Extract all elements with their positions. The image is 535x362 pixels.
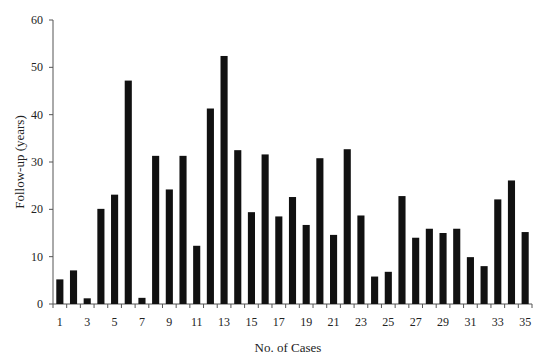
bar bbox=[344, 149, 351, 304]
bar bbox=[56, 279, 63, 304]
y-axis: 0102030405060 bbox=[31, 13, 53, 311]
bar-chart: 0102030405060 13579111315171921232527293… bbox=[0, 0, 535, 362]
y-tick-label: 40 bbox=[31, 108, 43, 122]
bar bbox=[234, 150, 241, 304]
x-tick-label: 13 bbox=[218, 315, 230, 329]
x-tick-label: 29 bbox=[437, 315, 449, 329]
bar bbox=[508, 180, 515, 304]
bar bbox=[207, 109, 214, 304]
x-tick-label: 7 bbox=[139, 315, 145, 329]
x-tick-label: 11 bbox=[191, 315, 203, 329]
x-tick-label: 33 bbox=[492, 315, 504, 329]
x-tick-label: 9 bbox=[166, 315, 172, 329]
y-axis-label: Follow-up (years) bbox=[12, 115, 27, 209]
x-tick-label: 15 bbox=[245, 315, 257, 329]
bar bbox=[262, 154, 269, 304]
x-tick-label: 21 bbox=[328, 315, 340, 329]
chart-canvas: 0102030405060 13579111315171921232527293… bbox=[0, 0, 535, 362]
bar bbox=[303, 225, 310, 304]
bar bbox=[111, 195, 118, 304]
x-axis-label: No. of Cases bbox=[255, 340, 322, 355]
x-tick-label: 23 bbox=[355, 315, 367, 329]
x-tick-label: 27 bbox=[410, 315, 422, 329]
y-tick-label: 60 bbox=[31, 13, 43, 27]
bar bbox=[330, 235, 337, 304]
x-axis: 1357911131517192123252729313335 bbox=[53, 304, 532, 329]
x-tick-label: 17 bbox=[273, 315, 285, 329]
bar bbox=[426, 229, 433, 304]
bar bbox=[385, 272, 392, 304]
bar bbox=[522, 232, 529, 304]
bars bbox=[56, 56, 528, 304]
bar bbox=[138, 298, 145, 304]
bar bbox=[275, 216, 282, 304]
bar bbox=[467, 257, 474, 304]
bar bbox=[166, 189, 173, 304]
bar bbox=[453, 229, 460, 304]
bar bbox=[97, 209, 104, 304]
bar bbox=[481, 266, 488, 304]
bar bbox=[371, 277, 378, 304]
bar bbox=[152, 156, 159, 304]
bar bbox=[193, 246, 200, 304]
bar bbox=[316, 158, 323, 304]
y-tick-label: 20 bbox=[31, 202, 43, 216]
x-tick-label: 35 bbox=[519, 315, 531, 329]
bar bbox=[179, 156, 186, 304]
bar bbox=[125, 81, 132, 304]
x-tick-label: 31 bbox=[464, 315, 476, 329]
bar bbox=[289, 197, 296, 304]
y-tick-label: 30 bbox=[31, 155, 43, 169]
bar bbox=[70, 270, 77, 304]
bar bbox=[357, 215, 364, 304]
bar bbox=[494, 199, 501, 304]
bar bbox=[398, 196, 405, 304]
bar bbox=[248, 212, 255, 304]
x-tick-label: 25 bbox=[382, 315, 394, 329]
y-tick-label: 10 bbox=[31, 250, 43, 264]
x-tick-label: 5 bbox=[112, 315, 118, 329]
x-tick-label: 3 bbox=[84, 315, 90, 329]
bar bbox=[221, 56, 228, 304]
bar bbox=[84, 298, 91, 304]
x-tick-label: 19 bbox=[300, 315, 312, 329]
y-tick-label: 50 bbox=[31, 60, 43, 74]
y-tick-label: 0 bbox=[37, 297, 43, 311]
bar bbox=[439, 233, 446, 304]
bar bbox=[412, 238, 419, 304]
x-tick-label: 1 bbox=[57, 315, 63, 329]
